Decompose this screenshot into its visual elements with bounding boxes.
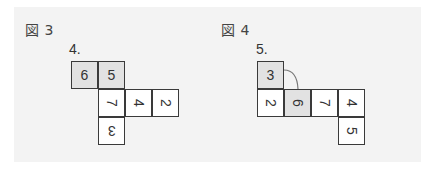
face-digit: 7 <box>317 99 331 107</box>
figure-3-label: 図 3 <box>25 19 54 39</box>
net-face-4: 4 <box>125 89 152 117</box>
net-face-7: 7 <box>98 89 125 117</box>
problem-5-number: 5. <box>256 41 268 57</box>
face-digit: 5 <box>344 127 358 135</box>
net-face-6: 6 <box>71 61 98 89</box>
face-digit: 6 <box>81 68 89 82</box>
face-digit: 2 <box>158 99 172 107</box>
face-digit: 5 <box>108 68 116 82</box>
face-digit: 3 <box>108 124 116 138</box>
net-face-3: 3 <box>257 61 284 89</box>
figure-4-label: 図 4 <box>221 19 250 39</box>
face-digit: 4 <box>344 99 358 107</box>
net-face-3: 3 <box>98 117 125 145</box>
net-face-7: 7 <box>311 89 338 117</box>
net-face-2: 2 <box>257 89 284 117</box>
face-digit: 4 <box>131 99 145 107</box>
face-digit: 6 <box>290 99 304 107</box>
face-digit: 7 <box>104 99 118 107</box>
net-face-5: 5 <box>98 61 125 89</box>
net-face-6: 6 <box>284 89 311 117</box>
net-face-4: 4 <box>338 89 365 117</box>
face-digit: 3 <box>267 68 275 82</box>
problem-4-number: 4. <box>69 41 81 57</box>
net-face-5: 5 <box>338 117 365 145</box>
net-face-2: 2 <box>152 89 179 117</box>
face-digit: 2 <box>263 99 277 107</box>
